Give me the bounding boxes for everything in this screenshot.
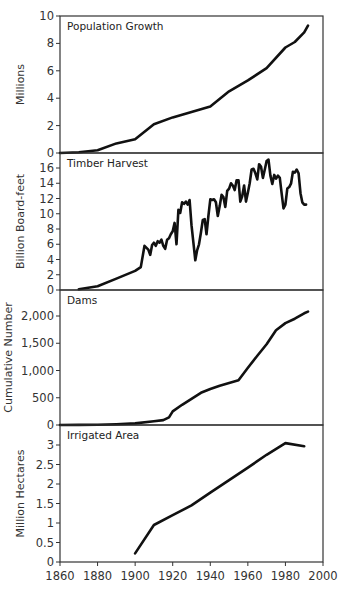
irrigated-area-line: [135, 443, 304, 553]
y-tick-label: 6: [47, 237, 54, 251]
x-axis: 18601880190019201940196019802000: [45, 562, 337, 583]
plot-frame: [60, 290, 323, 425]
y-tick-label: 2,000: [21, 309, 54, 323]
y-tick-label: 14: [39, 176, 54, 190]
x-tick-label: 2000: [308, 569, 337, 583]
y-tick-label: 1,000: [21, 364, 54, 378]
irrigated-area-panel: 00.511.522.53Million HectaresIrrigated A…: [14, 425, 323, 569]
x-tick-label: 1920: [158, 569, 187, 583]
y-tick-label: 8: [47, 36, 54, 50]
y-tick-label: 1.5: [36, 497, 54, 511]
x-tick-label: 1900: [121, 569, 150, 583]
panel-title: Irrigated Area: [67, 429, 139, 441]
x-tick-label: 1960: [233, 569, 262, 583]
panel-title: Timber Harvest: [66, 157, 148, 169]
y-tick-label: 10: [39, 9, 54, 23]
y-axis-title: Cumulative Number: [2, 302, 15, 413]
y-tick-label: 4: [47, 253, 54, 267]
y-tick-label: 2: [47, 477, 54, 491]
dams-line: [60, 312, 308, 425]
dams-panel: 05001,0001,5002,000Cumulative NumberDams: [2, 290, 323, 432]
panel-title: Dams: [67, 294, 97, 306]
y-tick-label: 1: [47, 516, 54, 530]
y-tick-label: 2.5: [36, 458, 54, 472]
timber-harvest-line: [79, 160, 306, 290]
y-tick-label: 0.5: [36, 536, 54, 550]
y-axis-title: Million Hectares: [14, 449, 27, 537]
y-tick-label: 8: [47, 222, 54, 236]
y-tick-label: 0: [47, 418, 54, 432]
y-tick-label: 2: [47, 268, 54, 282]
y-tick-label: 12: [39, 192, 54, 206]
x-tick-label: 1940: [196, 569, 225, 583]
y-tick-label: 16: [39, 161, 54, 175]
y-tick-label: 500: [32, 391, 54, 405]
y-tick-label: 10: [39, 207, 54, 221]
stacked-line-charts: 0246810MillionsPopulation Growth02468101…: [0, 0, 346, 596]
x-tick-label: 1880: [83, 569, 112, 583]
population-growth-line: [60, 26, 308, 153]
population-growth-panel: 0246810MillionsPopulation Growth: [14, 9, 323, 160]
y-tick-label: 0: [47, 283, 54, 297]
timber-harvest-panel: 0246810121416Billion Board-feetTimber Ha…: [14, 153, 323, 297]
y-axis-title: Billion Board-feet: [14, 173, 27, 269]
y-tick-label: 0: [47, 555, 54, 569]
y-axis-title: Millions: [14, 64, 27, 105]
y-tick-label: 6: [47, 64, 54, 78]
panel-title: Population Growth: [67, 20, 164, 32]
y-tick-label: 1,500: [21, 336, 54, 350]
y-tick-label: 0: [47, 146, 54, 160]
x-tick-label: 1860: [45, 569, 74, 583]
y-tick-label: 2: [47, 119, 54, 133]
y-tick-label: 3: [47, 438, 54, 452]
plot-frame: [60, 16, 323, 153]
y-tick-label: 4: [47, 91, 54, 105]
x-tick-label: 1980: [271, 569, 300, 583]
